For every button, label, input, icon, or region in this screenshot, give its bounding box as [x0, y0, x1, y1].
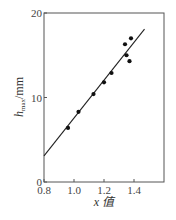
data-point — [76, 110, 80, 114]
data-point — [127, 59, 131, 63]
x-axis-label: x 值 — [93, 195, 116, 209]
plot-frame — [44, 13, 164, 182]
data-point — [102, 80, 106, 84]
x-tick-label: 1.4 — [127, 184, 141, 196]
data-point — [109, 71, 113, 75]
x-tick-label: 0.8 — [37, 184, 51, 196]
chart: 01020 0.81.01.21.4 x 值 hmax/mm — [0, 0, 176, 220]
y-axis-ticks: 01020 — [31, 7, 47, 188]
y-axis-label: hmax/mm — [12, 76, 27, 117]
y-tick-label: 20 — [31, 7, 43, 19]
data-point — [66, 126, 70, 130]
x-tick-label: 1.0 — [67, 184, 81, 196]
data-point — [129, 36, 133, 40]
data-point — [123, 42, 127, 46]
data-point — [124, 53, 128, 57]
y-tick-label: 10 — [31, 92, 43, 104]
data-point — [91, 92, 95, 96]
